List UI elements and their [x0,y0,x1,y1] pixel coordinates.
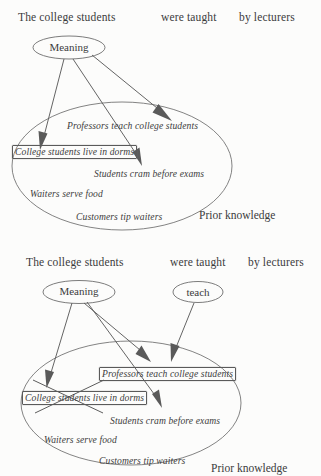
proposition-professors: Professors teach college students [67,120,198,131]
arrow-meaning-to-dorms-head [45,370,54,389]
proposition-waiters: Waiters serve food [44,434,117,445]
arrow-meaning-to-dorms-line [44,59,65,138]
proposition-customers: Customers tip waiters [76,211,162,222]
sentence-part-verb: were taught [161,11,217,23]
region-label-prior-knowledge: Prior knowledge [199,209,275,221]
proposition-dorms-boxed: College students live in dorms [12,145,137,159]
sentence-part-verb: were taught [170,256,226,268]
sentence-part-subject: The college students [26,256,124,268]
proposition-professors-boxed: Professors teach college students [99,367,236,381]
sentence-part-subject: The college students [18,11,116,23]
proposition-cram: Students cram before exams [110,415,220,426]
proposition-dorms-boxed-crossed: College students live in dorms [22,391,147,405]
proposition-waiters: Waiters serve food [30,188,103,199]
arrow-meaning-to-cram-line [73,59,138,156]
proposition-customers: Customers tip waiters [99,455,185,466]
arrow-meaning-to-region-right-line [92,55,157,108]
node-label-meaning: Meaning [49,285,109,297]
sentence-part-agent: by lecturers [239,11,295,23]
node-label-teach: teach [173,286,223,298]
figure-canvas: The college students were taught by lect… [0,0,321,476]
arrow-teach-to-professors-line [175,303,194,350]
node-label-meaning: Meaning [39,41,99,53]
arrow-meaning-to-dorms-line [50,303,72,376]
diagram-panel-top: The college students were taught by lect… [0,0,321,240]
region-label-prior-knowledge: Prior knowledge [211,462,287,474]
proposition-cram: Students cram before exams [94,168,204,179]
arrow-meaning-to-cram-head [152,390,162,409]
diagram-panel-bottom: The college students were taught by lect… [0,240,321,476]
sentence-part-agent: by lecturers [248,256,304,268]
arrow-teach-to-professors-head [171,343,180,362]
